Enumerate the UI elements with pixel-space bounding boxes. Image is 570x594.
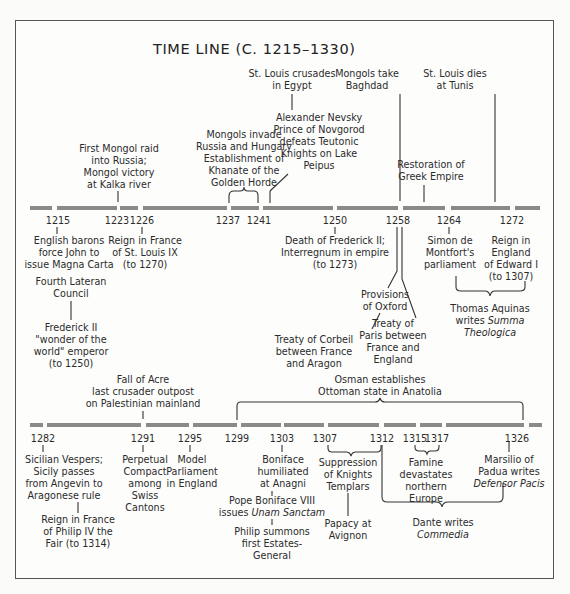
event-frederick-ii: Frederick II"wonder of the world" empero… xyxy=(34,322,109,370)
event-edward-i: Reign inEngland of Edward I(to 1307) xyxy=(484,235,538,283)
year-1315: 1315 xyxy=(403,433,427,444)
event-mongols-baghdad: Mongols takeBaghdad xyxy=(335,68,399,92)
year-1226: 1226 xyxy=(130,215,154,226)
event-philip-iv: Reign in Franceof Philip IV the Fair (to… xyxy=(41,514,115,550)
event-papacy-avignon: Papacy atAvignon xyxy=(325,518,372,542)
event-boniface-anagni: Bonifacehumiliated at Anagni xyxy=(257,454,308,490)
event-st-louis-reign: Reign in Franceof St. Louis IX (to 1270) xyxy=(108,235,182,271)
year-1303: 1303 xyxy=(270,433,294,444)
event-st-louis-egypt: St. Louis crusadesin Egypt xyxy=(249,68,336,92)
event-fall-of-acre: Fall of Acrelast crusader outpost on Pal… xyxy=(86,374,201,410)
event-sicilian-vespers: Sicilian Vespers;Sicily passes from Ange… xyxy=(25,454,103,502)
event-perpetual-compact: PerpetualCompact amongSwiss Cantons xyxy=(122,454,168,514)
year-1299: 1299 xyxy=(225,433,249,444)
year-1326: 1326 xyxy=(505,433,529,444)
event-famine: Faminedevastates northernEurope xyxy=(400,457,453,505)
event-provisions-oxford: Provisionsof Oxford xyxy=(361,289,409,313)
event-fourth-lateran: Fourth LateranCouncil xyxy=(36,276,107,300)
year-1282: 1282 xyxy=(31,433,55,444)
year-1272: 1272 xyxy=(500,215,524,226)
year-1307: 1307 xyxy=(313,433,337,444)
event-unam-sanctam: Pope Boniface VIII issues Unam Sanctam xyxy=(219,495,325,519)
event-mongol-raid: First Mongol raidinto Russia; Mongol vic… xyxy=(79,143,159,191)
event-magna-carta: English baronsforce John to issue Magna … xyxy=(24,235,113,271)
event-death-frederick: Death of Frederick II;Interregnum in emp… xyxy=(281,235,389,271)
year-1215: 1215 xyxy=(46,215,70,226)
year-1258: 1258 xyxy=(386,215,410,226)
year-1250: 1250 xyxy=(323,215,347,226)
year-1317: 1317 xyxy=(425,433,449,444)
event-estates-general: Philip summonsfirst Estates- General xyxy=(234,526,310,562)
event-model-parliament: ModelParliament in England xyxy=(166,454,217,490)
event-nevsky: Alexander NevskyPrince of Novgorod defea… xyxy=(273,112,364,172)
event-knights-templars: Suppressionof Knights Templars xyxy=(319,457,378,493)
event-marsilio: Marsilio ofPadua writes Defensor Pacis xyxy=(473,454,544,490)
event-dante: Dante writes Commedia xyxy=(412,517,473,541)
page-title: TIME LINE (C. 1215–1330) xyxy=(153,41,356,57)
event-greek-empire: Restoration ofGreek Empire xyxy=(397,159,464,183)
year-1237: 1237 xyxy=(216,215,240,226)
event-aquinas: Thomas Aquinas writes Summa Theologica xyxy=(450,303,529,339)
year-1295: 1295 xyxy=(178,433,202,444)
year-1241: 1241 xyxy=(247,215,271,226)
event-st-louis-tunis: St. Louis diesat Tunis xyxy=(423,68,486,92)
event-treaty-corbeil: Treaty of Corbeilbetween France and Arag… xyxy=(275,334,354,370)
event-simon-de-montfort: Simon deMontfort's parliament xyxy=(424,235,476,271)
year-1291: 1291 xyxy=(131,433,155,444)
event-osman: Osman establishesOttoman state in Anatol… xyxy=(318,374,442,398)
year-1264: 1264 xyxy=(437,215,461,226)
event-treaty-paris: Treaty ofParis between France andEngland xyxy=(359,318,426,366)
year-1312: 1312 xyxy=(370,433,394,444)
year-1223: 1223 xyxy=(105,215,129,226)
